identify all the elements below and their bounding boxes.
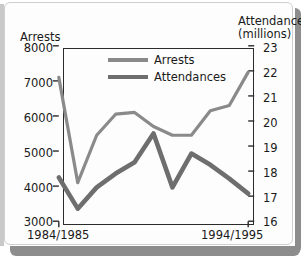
series-line-arrests [59, 72, 248, 183]
series-line-attendances [59, 134, 248, 209]
chart-screenshot: Arrests Attendances (millions) 8000 7000… [0, 0, 301, 261]
chart-vector-layer [0, 0, 301, 261]
